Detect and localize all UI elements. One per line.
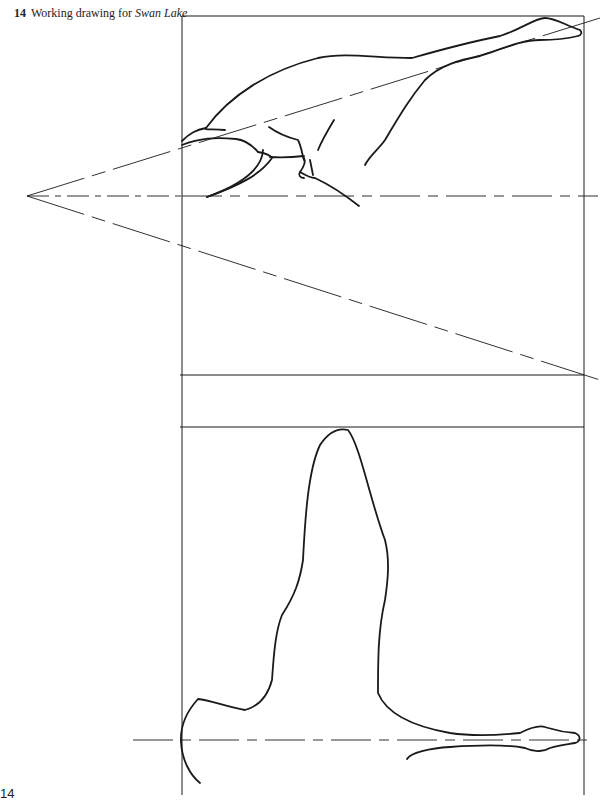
page-number: 14 [0,786,14,801]
construction-lines [27,18,600,740]
frame-lines [180,16,584,795]
pose-outline [181,429,580,783]
swan-side-view [182,18,581,206]
working-drawing [0,0,605,803]
